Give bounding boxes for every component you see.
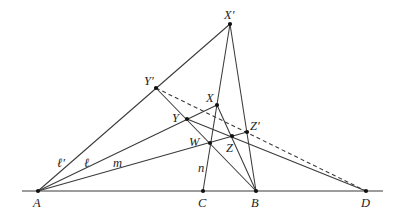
line-x-b bbox=[217, 105, 256, 191]
line-label-m: m bbox=[113, 156, 122, 170]
point-y-prime bbox=[154, 86, 158, 90]
line-yprime-d bbox=[156, 88, 366, 191]
labels-layer: A C B D X′ Y′ X Y Z′ Z W ℓ′ ℓ m n bbox=[32, 8, 370, 210]
point-label-c: C bbox=[198, 196, 207, 210]
point-a bbox=[36, 189, 40, 193]
point-label-z: Z bbox=[226, 141, 234, 155]
line-n bbox=[203, 24, 230, 191]
point-label-a: A bbox=[32, 196, 41, 210]
point-x bbox=[215, 103, 219, 107]
point-label-b: B bbox=[251, 196, 259, 210]
point-b bbox=[254, 189, 258, 193]
point-label-x: X bbox=[205, 91, 215, 105]
line-b-xprime bbox=[230, 24, 256, 191]
point-z-prime bbox=[245, 130, 249, 134]
point-w bbox=[208, 141, 212, 145]
point-label-z-prime: Z′ bbox=[250, 119, 260, 133]
point-label-y-prime: Y′ bbox=[144, 74, 154, 88]
point-x-prime bbox=[228, 22, 232, 26]
point-c bbox=[201, 189, 205, 193]
geometry-diagram: A C B D X′ Y′ X Y Z′ Z W ℓ′ ℓ m n bbox=[0, 0, 401, 216]
line-label-n: n bbox=[198, 161, 204, 175]
line-y-d bbox=[187, 119, 366, 191]
point-y bbox=[185, 117, 189, 121]
point-d bbox=[364, 189, 368, 193]
line-label-l: ℓ bbox=[84, 156, 89, 170]
point-label-d: D bbox=[360, 196, 370, 210]
point-label-w: W bbox=[189, 135, 201, 149]
line-label-l-prime: ℓ′ bbox=[57, 156, 65, 170]
point-label-x-prime: X′ bbox=[223, 8, 235, 22]
point-z bbox=[230, 134, 234, 138]
